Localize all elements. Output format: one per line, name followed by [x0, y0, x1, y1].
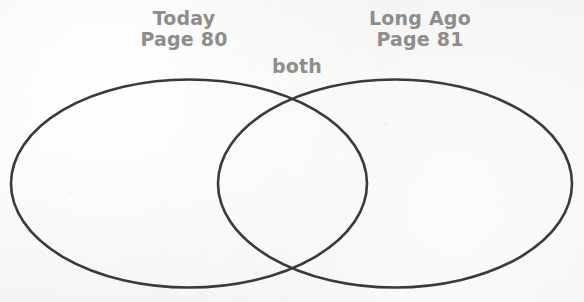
left-ellipse-today[interactable] [11, 80, 367, 288]
right-circle-subtitle: Page 81 [330, 29, 510, 50]
right-ellipse-long-ago[interactable] [218, 80, 572, 288]
left-circle-title: Today [153, 7, 216, 29]
right-circle-label: Long Ago Page 81 [330, 8, 510, 50]
overlap-label: both [257, 56, 337, 77]
right-circle-title: Long Ago [369, 7, 471, 29]
left-circle-subtitle: Page 80 [104, 29, 264, 50]
venn-diagram-worksheet: Today Page 80 Long Ago Page 81 both [0, 0, 584, 302]
left-circle-label: Today Page 80 [104, 8, 264, 50]
